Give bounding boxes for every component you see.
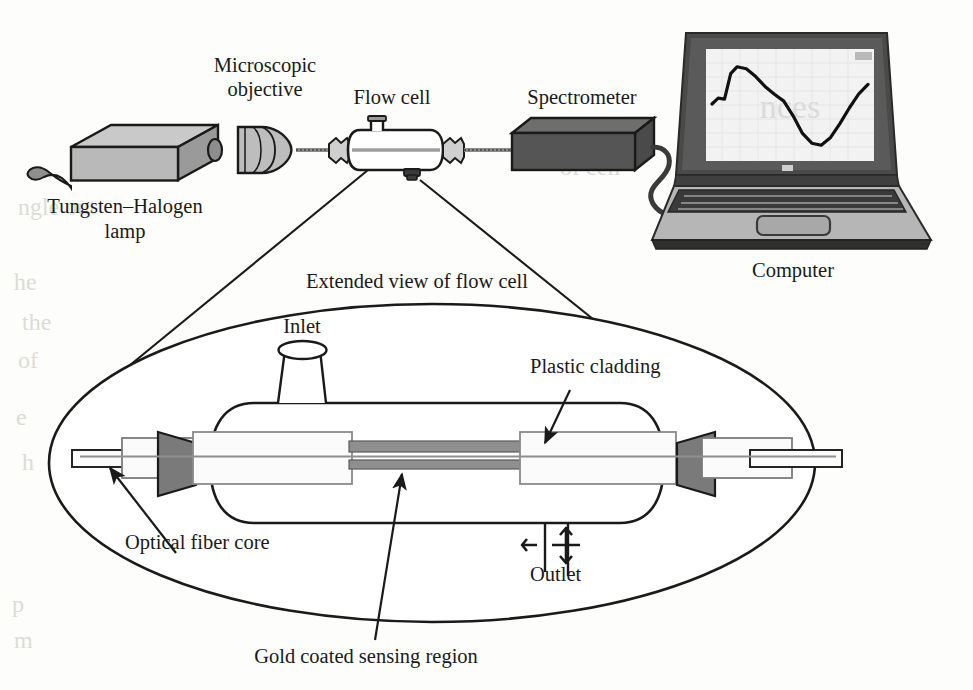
lamp-front-face [71, 147, 178, 181]
optical-fiber-core-label: Optical fiber core [125, 531, 270, 554]
coupler-left [158, 432, 196, 496]
flow-cell-label: Flow cell [354, 86, 431, 108]
flow-cell-outlet-tip [407, 175, 417, 180]
cladding-sleeve-left-inner [193, 432, 352, 484]
svg-text:of: of [18, 347, 38, 373]
extended-view-title: Extended view of flow cell [306, 270, 528, 292]
figure-root: ngle out he the of e h p m of cell Tungs… [0, 0, 973, 690]
flow-cell-right-connector [443, 138, 464, 163]
gold-region-label: Gold coated sensing region [254, 645, 478, 668]
flow-cell-inlet-cap [368, 116, 386, 121]
lamp-label-line2: lamp [105, 220, 146, 243]
svg-text:the: the [22, 309, 51, 335]
lamp-label-line1: Tungsten–Halogen [47, 195, 202, 218]
inlet-label: Inlet [283, 315, 321, 337]
laptop-brand-badge [782, 165, 793, 171]
svg-text:m: m [14, 627, 33, 653]
spectrometer-front-face [512, 133, 635, 170]
inlet-funnel-mouth [279, 341, 327, 359]
fiber-core-rod-right [750, 450, 842, 467]
screen-watermark: nces [760, 88, 820, 125]
computer-label: Computer [752, 259, 834, 282]
objective-body [238, 127, 291, 173]
gold-sensing-bar-upper [349, 441, 523, 452]
objective-label-line2: objective [227, 78, 302, 101]
svg-text:h: h [22, 449, 34, 475]
laptop-front-edge [652, 240, 931, 249]
svg-text:e: e [16, 404, 27, 430]
lamp-output-port [208, 139, 222, 161]
objective-label-line1: Microscopic [214, 54, 316, 77]
gold-sensing-bar-lower [349, 460, 523, 469]
plastic-cladding-label: Plastic cladding [530, 355, 660, 378]
laptop-hinge [674, 175, 899, 186]
outlet-label: Outlet [530, 563, 582, 585]
spectrometer-label: Spectrometer [527, 86, 636, 109]
inlet-assembly: Inlet [278, 315, 327, 403]
computer-assembly: nces [652, 33, 931, 282]
svg-text:he: he [14, 269, 37, 295]
diagram-canvas: ngle out he the of e h p m of cell Tungs… [0, 0, 973, 690]
laptop-trackpad[interactable] [757, 216, 830, 235]
cladding-sleeve-right-inner [520, 432, 676, 484]
screen-toolbar-chip [855, 52, 872, 60]
svg-text:p: p [12, 591, 24, 617]
spectrometer-top-face [512, 118, 654, 133]
